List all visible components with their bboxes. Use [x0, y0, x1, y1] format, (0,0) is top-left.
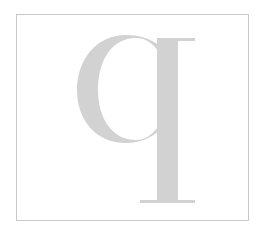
letter-q-glyph — [0, 0, 264, 235]
